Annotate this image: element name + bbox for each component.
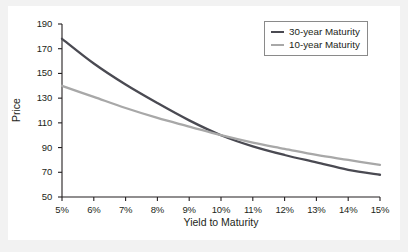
legend-swatch-30-year — [271, 31, 284, 33]
x-axis-tick-label: 11% — [236, 204, 270, 215]
chart-figure: 507090110130150170190 5%6%7%8%9%10%11%12… — [0, 0, 408, 252]
legend-item-10-year: 10-year Maturity — [271, 38, 360, 51]
x-axis-tick-label: 15% — [363, 204, 397, 215]
x-axis-tick-label: 13% — [299, 204, 333, 215]
series-line — [62, 86, 380, 165]
series-line — [62, 39, 380, 175]
x-axis-tick-label: 7% — [109, 204, 143, 215]
x-axis-ticks — [62, 197, 380, 201]
legend-label-30-year: 30-year Maturity — [289, 26, 360, 37]
y-axis-tick-label: 170 — [26, 43, 52, 54]
legend-item-30-year: 30-year Maturity — [271, 25, 360, 38]
y-axis-tick-label: 90 — [26, 142, 52, 153]
data-series — [62, 39, 380, 175]
x-axis-title: Yield to Maturity — [62, 216, 380, 228]
y-axis-tick-label: 50 — [26, 191, 52, 202]
y-axis-tick-label: 150 — [26, 67, 52, 78]
x-axis-tick-label: 10% — [204, 204, 238, 215]
y-axis-tick-label: 190 — [26, 18, 52, 29]
y-axis-title: Price — [10, 80, 22, 140]
chart-legend: 30-year Maturity 10-year Maturity — [264, 21, 368, 56]
x-axis-tick-label: 5% — [45, 204, 79, 215]
y-axis-tick-label: 110 — [26, 117, 52, 128]
x-axis-tick-label: 9% — [172, 204, 206, 215]
legend-label-10-year: 10-year Maturity — [289, 39, 360, 50]
y-axis-ticks — [58, 24, 62, 197]
y-axis-tick-label: 70 — [26, 166, 52, 177]
legend-swatch-10-year — [271, 44, 284, 46]
x-axis-tick-label: 8% — [140, 204, 174, 215]
x-axis-tick-label: 14% — [331, 204, 365, 215]
x-axis-tick-label: 12% — [268, 204, 302, 215]
y-axis-tick-label: 130 — [26, 92, 52, 103]
x-axis-tick-label: 6% — [77, 204, 111, 215]
